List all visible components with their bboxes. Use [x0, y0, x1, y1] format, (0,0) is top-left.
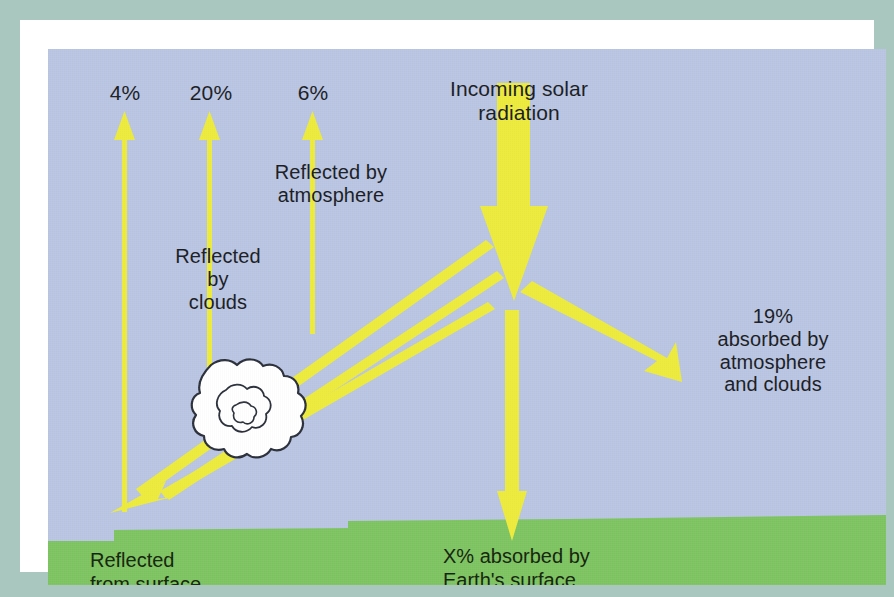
label-4-percent: 4% [94, 81, 156, 105]
label-reflected-by-clouds: Reflected by clouds [153, 245, 283, 313]
label-20-percent: 20% [176, 81, 246, 105]
absorbed-atmosphere-arrow [520, 281, 682, 382]
label-absorbed-by-atmosphere: 19% absorbed by atmosphere and clouds [678, 305, 868, 396]
cloud-icon [192, 359, 306, 457]
diagram-canvas: 4% 20% 6% Reflected by atmosphere Reflec… [48, 49, 886, 585]
reflected-clouds-left-arrow [114, 111, 135, 512]
reflected-atmosphere-arrow [302, 111, 323, 334]
absorbed-surface-arrow [497, 310, 527, 541]
label-incoming-solar-radiation: Incoming solar radiation [403, 77, 635, 125]
figure-root: 4% 20% 6% Reflected by atmosphere Reflec… [0, 0, 894, 597]
white-frame: 4% 20% 6% Reflected by atmosphere Reflec… [20, 20, 874, 572]
label-6-percent: 6% [282, 81, 344, 105]
label-reflected-from-surface: Reflected from surface [90, 549, 320, 585]
label-reflected-by-atmosphere: Reflected by atmosphere [236, 161, 426, 207]
label-absorbed-by-earth-surface: X% absorbed by Earth's surface [443, 545, 703, 585]
